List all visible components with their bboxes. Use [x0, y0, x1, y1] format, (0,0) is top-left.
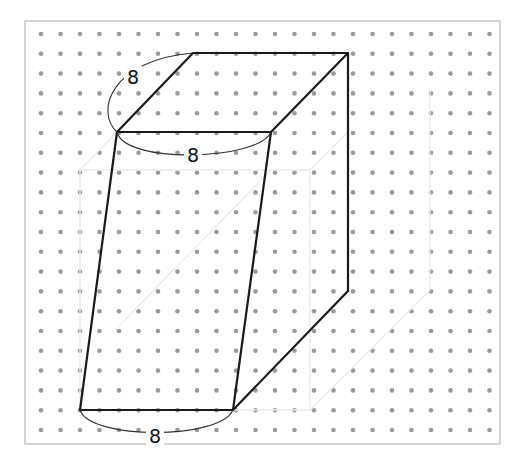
grid-dot: [78, 131, 83, 136]
grid-dot: [468, 269, 473, 274]
grid-dot: [97, 91, 102, 96]
dimension-labels: 8 8 8: [124, 66, 202, 447]
grid-dot: [117, 269, 122, 274]
grid-dot: [292, 428, 297, 433]
grid-dot: [273, 230, 278, 235]
grid-dot: [175, 309, 180, 314]
grid-dot: [117, 190, 122, 195]
grid-dot: [390, 269, 395, 274]
grid-dot: [409, 71, 414, 76]
grid-dot: [39, 210, 44, 215]
grid-dot: [195, 388, 200, 393]
grid-dot: [195, 170, 200, 175]
grid-dot: [468, 91, 473, 96]
grid-dot: [468, 71, 473, 76]
grid-dot: [351, 388, 356, 393]
grid-dot: [351, 269, 356, 274]
grid-dot: [370, 408, 375, 413]
grid-dot: [409, 230, 414, 235]
grid-dot: [273, 170, 278, 175]
grid-dot: [39, 32, 44, 37]
grid-dot: [195, 230, 200, 235]
grid-dot: [175, 91, 180, 96]
grid-dot: [448, 52, 453, 57]
grid-dot: [409, 329, 414, 334]
grid-dot: [390, 210, 395, 215]
grid-dot: [448, 289, 453, 294]
grid-dot: [78, 32, 83, 37]
grid-dot: [97, 230, 102, 235]
grid-dot: [273, 151, 278, 156]
grid-dot: [351, 250, 356, 255]
grid-dot: [136, 289, 141, 294]
grid-dot: [234, 250, 239, 255]
grid-dot: [390, 408, 395, 413]
grid-dot: [156, 269, 161, 274]
grid-dot: [468, 210, 473, 215]
grid-dot: [409, 190, 414, 195]
grid-dot: [273, 91, 278, 96]
grid-dot: [117, 368, 122, 373]
grid-dot: [234, 289, 239, 294]
grid-dot: [370, 170, 375, 175]
grid-dot: [487, 52, 492, 57]
grid-dot: [409, 91, 414, 96]
grid-dot: [487, 32, 492, 37]
grid-dot: [448, 250, 453, 255]
grid-dot: [331, 250, 336, 255]
grid-dot: [312, 230, 317, 235]
grid-dot: [253, 71, 258, 76]
grid-dot: [351, 289, 356, 294]
grid-dot: [234, 269, 239, 274]
grid-dot: [487, 368, 492, 373]
grid-dot: [409, 32, 414, 37]
grid-dot: [487, 250, 492, 255]
grid-dot: [58, 368, 63, 373]
grid-dot: [487, 349, 492, 354]
grid-dot: [253, 329, 258, 334]
grid-dot: [156, 329, 161, 334]
front-right-edge: [233, 132, 271, 410]
grid-dot: [214, 269, 219, 274]
grid-dot: [312, 170, 317, 175]
grid-dot: [253, 269, 258, 274]
depth-label: 8: [127, 66, 139, 88]
grid-dot: [58, 289, 63, 294]
grid-dot: [214, 230, 219, 235]
grid-dot: [351, 151, 356, 156]
grid-dot: [273, 428, 278, 433]
grid-dot: [273, 269, 278, 274]
grid-dot: [390, 349, 395, 354]
grid-dot: [409, 388, 414, 393]
grid-dot: [234, 210, 239, 215]
grid-dot: [214, 91, 219, 96]
grid-dot: [39, 329, 44, 334]
grid-dot: [487, 269, 492, 274]
grid-dot: [409, 210, 414, 215]
grid-dot: [156, 210, 161, 215]
grid-dot: [390, 230, 395, 235]
grid-dot: [409, 408, 414, 413]
dimension-arcs: [80, 53, 271, 433]
grid-dot: [97, 329, 102, 334]
grid-dot: [253, 111, 258, 116]
grid-dot: [370, 289, 375, 294]
grid-dot: [58, 349, 63, 354]
grid-dot: [195, 111, 200, 116]
grid-dot: [409, 131, 414, 136]
grid-dot: [136, 52, 141, 57]
grid-dot: [312, 151, 317, 156]
grid-dot: [468, 349, 473, 354]
grid-dot: [292, 230, 297, 235]
grid-dot: [39, 388, 44, 393]
grid-dot: [312, 190, 317, 195]
grid-dot: [195, 32, 200, 37]
grid-dot: [468, 428, 473, 433]
grid-dot: [175, 190, 180, 195]
grid-dot: [468, 368, 473, 373]
grid-dot: [39, 111, 44, 116]
grid-dot: [97, 388, 102, 393]
grid-dot: [58, 428, 63, 433]
grid-dot: [351, 71, 356, 76]
grid-dot: [58, 388, 63, 393]
